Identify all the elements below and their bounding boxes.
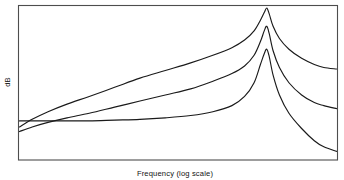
resonance-chart-figure: Frequency (log scale) dB bbox=[0, 0, 344, 180]
x-axis-label: Frequency (log scale) bbox=[137, 169, 213, 178]
chart-canvas: Frequency (log scale) dB bbox=[0, 0, 344, 180]
y-axis-label: dB bbox=[3, 77, 12, 87]
